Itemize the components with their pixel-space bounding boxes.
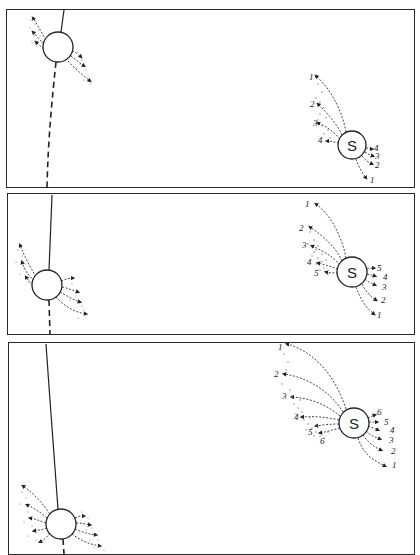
- field-line-label: 2: [310, 99, 315, 109]
- star-right-labels: 5 4 3 2 1: [377, 263, 388, 320]
- orbit-path-dashed: [49, 300, 50, 335]
- star-plasma-dots: [315, 83, 330, 138]
- star-field-lines: [316, 76, 373, 178]
- field-line-label: 4: [307, 257, 312, 267]
- planet-body: [43, 32, 73, 62]
- field-line-label: 1: [392, 460, 397, 470]
- field-line-label: 5: [377, 263, 382, 273]
- panel-3-drawing: S 1 2 3 4 5 6 6 5 4 3 2 1: [19, 342, 396, 554]
- star-field-lines: [310, 204, 376, 314]
- field-line-label: 3: [381, 282, 387, 292]
- planet-body: [46, 509, 76, 539]
- orbit-path-dashed: [63, 539, 64, 554]
- field-line-label: 4: [294, 412, 299, 422]
- field-line-label: 4: [390, 425, 395, 435]
- field-line-label: 6: [320, 436, 325, 446]
- orbit-path-dashed: [47, 62, 56, 188]
- field-line-label: 2: [299, 223, 304, 233]
- star-field-lines: [284, 344, 385, 466]
- field-line-label: 4: [318, 135, 323, 145]
- field-line-label: 2: [391, 446, 396, 456]
- star-left-labels: 1 2 3 4 5 6: [274, 342, 325, 446]
- field-line-label: 5: [384, 417, 389, 427]
- field-line-label: 1: [309, 72, 314, 82]
- field-line-label: 1: [305, 199, 310, 209]
- field-line-label: 1: [370, 175, 375, 185]
- orbit-path: [61, 10, 64, 32]
- field-line-label: 3: [281, 391, 287, 401]
- field-line-label: 5: [314, 268, 319, 278]
- field-line-label: 2: [375, 160, 380, 170]
- field-line-label: 5: [308, 427, 313, 437]
- orbit-path: [49, 195, 52, 270]
- star-plasma-dots: [281, 353, 328, 438]
- field-line-label: 3: [312, 118, 318, 128]
- panel-2-drawing: S 1 2 3 4 5 5 4 3 2 1: [15, 195, 388, 335]
- field-line-label: 1: [278, 342, 283, 352]
- star-label: S: [347, 137, 357, 154]
- panel-1-drawing: S 1 2 3 4 4 3 2 1: [29, 10, 380, 188]
- field-line-label: 1: [377, 310, 382, 320]
- planet-body: [32, 270, 62, 300]
- field-line-label: 3: [388, 435, 394, 445]
- field-line-label: 2: [381, 295, 386, 305]
- field-line-label: 2: [274, 369, 279, 379]
- field-line-label: 4: [383, 272, 388, 282]
- field-line-label: 6: [377, 407, 382, 417]
- field-line-label: 3: [301, 240, 307, 250]
- star-left-labels: 1 2 3 4 5: [299, 199, 319, 278]
- star-label: S: [349, 415, 359, 432]
- star-left-labels: 1 2 3 4: [309, 72, 323, 145]
- orbit-path: [46, 344, 58, 509]
- star-label: S: [347, 264, 357, 281]
